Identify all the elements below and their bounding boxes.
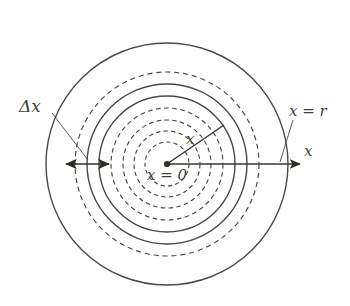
delta-x-leader: [52, 113, 88, 160]
delta-x-label: Δx: [19, 98, 41, 115]
x-equals-r-label: x = r: [289, 104, 327, 119]
concentric-circles-diagram: [0, 0, 350, 306]
figure-canvas: Δx x = r x x x = 0: [0, 0, 350, 306]
x-equals-zero-label: x = 0: [147, 168, 187, 183]
radius-x-label: x: [186, 132, 194, 147]
x-axis-label: x: [304, 144, 312, 159]
